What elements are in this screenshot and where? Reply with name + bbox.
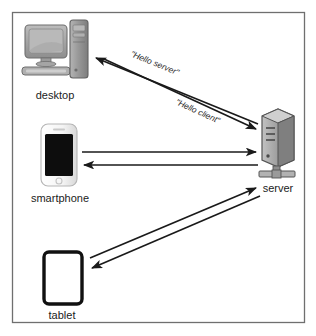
smartphone-icon [41, 124, 77, 186]
server-label: server [263, 182, 294, 194]
smartphone-label: smartphone [31, 192, 89, 204]
desktop-computer-icon [22, 20, 88, 78]
tablet-label: tablet [49, 309, 76, 321]
network-diagram: desktop smartphone tablet [0, 0, 316, 336]
desktop-label: desktop [36, 89, 75, 101]
tablet-icon [44, 252, 82, 304]
diagram-canvas: desktop smartphone tablet [0, 0, 316, 336]
